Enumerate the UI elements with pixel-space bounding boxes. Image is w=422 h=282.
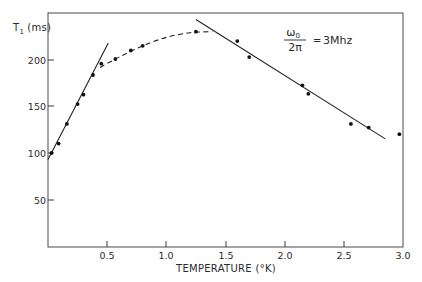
- y-axis-title: T1(ms): [12, 22, 51, 36]
- data-point: [306, 92, 310, 96]
- svg-text:2π: 2π: [288, 41, 302, 54]
- data-point: [99, 62, 103, 66]
- data-point: [76, 102, 80, 106]
- x-tick-label: 2.0: [277, 250, 292, 261]
- frequency-annotation: ω0 2π = 3Mhz: [284, 26, 352, 54]
- x-axis-ticks: 0.5 1.0 1.5 2.0 2.5 3.0: [99, 241, 410, 261]
- data-point: [194, 30, 198, 34]
- dashed-transition-curve: [100, 32, 212, 68]
- data-point: [129, 49, 133, 53]
- data-point: [301, 83, 305, 87]
- y-tick-label: 100: [28, 148, 46, 159]
- linear-fit-line: [48, 43, 108, 160]
- x-axis-title: TEMPERATURE (°K): [175, 263, 276, 274]
- x-tick-label: 1.0: [158, 250, 173, 261]
- data-point: [91, 73, 95, 77]
- data-point: [367, 126, 371, 130]
- data-point: [247, 55, 251, 59]
- data-points: [50, 30, 402, 155]
- data-point: [349, 122, 353, 126]
- data-point: [57, 142, 61, 146]
- data-point: [114, 57, 118, 61]
- data-point: [235, 39, 239, 43]
- data-point: [82, 93, 86, 97]
- svg-text:3Mhz: 3Mhz: [323, 34, 352, 47]
- x-tick-label: 2.5: [336, 250, 351, 261]
- data-point: [65, 122, 69, 126]
- t1-vs-temperature-chart: T1(ms) 200 150 100 50 0.5 1.0 1.5 2.0 2.…: [0, 0, 422, 282]
- x-tick-label: 0.5: [99, 250, 114, 261]
- y-tick-label: 200: [28, 55, 46, 66]
- svg-text:ω0: ω0: [286, 26, 300, 40]
- y-tick-label: 150: [28, 101, 46, 112]
- data-point: [398, 132, 402, 136]
- data-point: [141, 44, 145, 48]
- y-axis-ticks: 200 150 100 50: [28, 55, 54, 206]
- y-tick-label: 50: [34, 195, 46, 206]
- data-point: [50, 151, 54, 155]
- svg-text:=: =: [313, 35, 321, 46]
- x-tick-label: 3.0: [395, 250, 410, 261]
- x-tick-label: 1.5: [218, 250, 233, 261]
- plot-frame: [48, 13, 403, 247]
